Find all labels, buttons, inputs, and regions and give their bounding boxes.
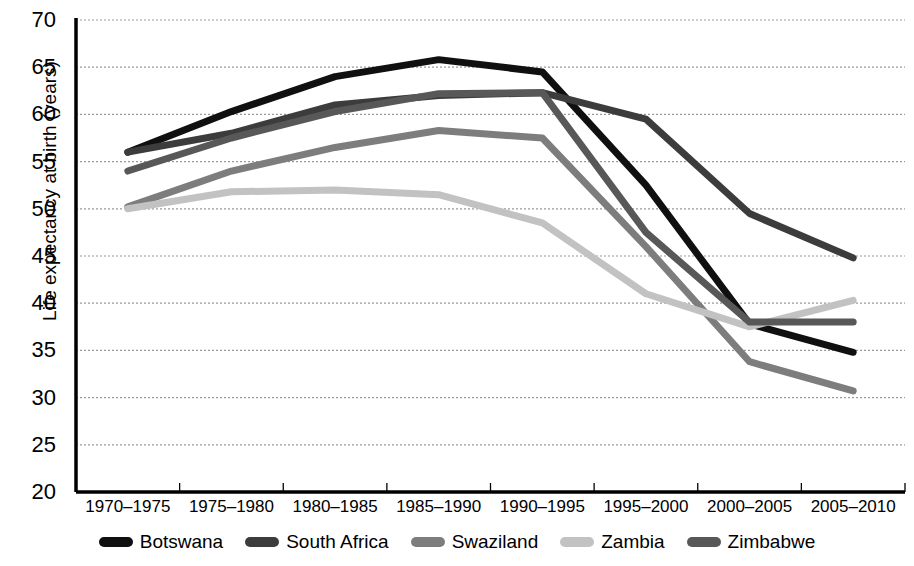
legend-item-south-africa[interactable]: South Africa [245, 531, 388, 553]
legend-item-zambia[interactable]: Zambia [560, 531, 664, 553]
legend-item-botswana[interactable]: Botswana [99, 531, 223, 553]
legend-item-zimbabwe[interactable]: Zimbabwe [687, 531, 816, 553]
series-line-swaziland [128, 130, 853, 391]
x-tick-label: 1985–1990 [384, 497, 494, 517]
legend-swatch-icon [560, 537, 594, 547]
legend-swatch-icon [687, 537, 721, 547]
legend-label: Swaziland [452, 531, 539, 553]
x-tick-label: 1990–1995 [487, 497, 597, 517]
life-expectancy-line-chart: Life expectancy at birth (years) 2025303… [0, 0, 914, 566]
x-tick-label: 1995–2000 [591, 497, 701, 517]
x-tick-label: 2005–2010 [798, 497, 908, 517]
x-tick-label: 1975–1980 [176, 497, 286, 517]
legend-label: Zimbabwe [728, 531, 816, 553]
legend-label: South Africa [286, 531, 388, 553]
chart-legend: BotswanaSouth AfricaSwazilandZambiaZimba… [0, 531, 914, 553]
plot-area: Life expectancy at birth (years) 2025303… [0, 0, 914, 566]
x-tick-label: 1980–1985 [280, 497, 390, 517]
legend-label: Zambia [601, 531, 664, 553]
x-tick-label: 1970–1975 [73, 497, 183, 517]
series-line-south-africa [128, 93, 853, 258]
x-tick-label: 2000–2005 [695, 497, 805, 517]
legend-swatch-icon [99, 537, 133, 547]
legend-item-swaziland[interactable]: Swaziland [411, 531, 539, 553]
chart-svg-canvas [0, 0, 914, 566]
legend-swatch-icon [411, 537, 445, 547]
legend-label: Botswana [140, 531, 223, 553]
legend-swatch-icon [245, 537, 279, 547]
